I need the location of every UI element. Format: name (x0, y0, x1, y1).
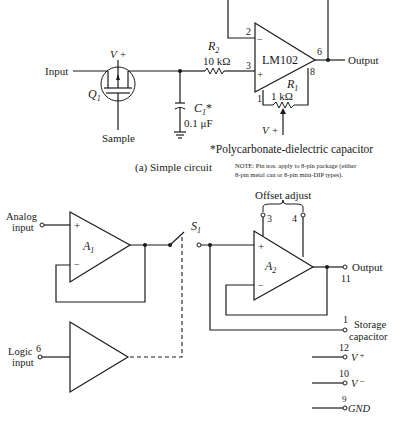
q1-arrow-icon (116, 74, 120, 80)
input-label: Input (45, 65, 68, 77)
r1-value: 1 kΩ (271, 90, 293, 102)
gnd-terminal (343, 406, 347, 410)
vminus-terminal (343, 381, 347, 385)
sample-and-hold-schematic: LM102 − + 2 3 6 8 1 Output Input V + Q1 … (0, 0, 410, 424)
vplus-pin-label: 12 (339, 342, 349, 353)
a2-feedback-wire (226, 267, 327, 315)
a2-minus-sign: − (258, 280, 264, 291)
output-pin-label: 11 (341, 273, 351, 284)
pin-3-label: 3 (246, 60, 251, 71)
offset-pin-3-label: 3 (267, 213, 272, 224)
switch-control-dashed (128, 237, 182, 357)
output-label-b: Output (352, 261, 383, 273)
logic-input-label: Logic (8, 346, 33, 357)
s1-contact-terminal (197, 243, 201, 247)
a1-feedback-wire (56, 245, 145, 302)
analog-input-terminal (40, 223, 44, 227)
footnote: *Polycarbonate-dielectric capacitor (210, 143, 373, 156)
s1-label: S1 (191, 219, 201, 235)
offset-brace (263, 200, 303, 212)
output-node (326, 58, 330, 62)
analog-input-label: Analog (6, 211, 38, 222)
pin-1-label: 1 (257, 93, 262, 104)
c1-value: 0.1 μF (184, 117, 213, 129)
storage-terminal (343, 328, 347, 332)
minus-sign: − (257, 34, 263, 45)
pin-6-label: 6 (317, 46, 322, 57)
sample-label: Sample (102, 132, 135, 144)
storage-label: Storage (354, 319, 386, 330)
circuit-a-simple: LM102 − + 2 3 6 8 1 Output Input V + Q1 … (45, 0, 379, 179)
analog-input-label-2: input (12, 222, 34, 233)
offset-adjust-label: Offset adjust (255, 189, 311, 201)
output-label: Output (348, 54, 379, 66)
vplus-terminal (343, 355, 347, 359)
a1-minus-sign: − (74, 259, 80, 270)
r2-label: R2 (207, 39, 219, 55)
pin-2-label: 2 (246, 26, 251, 37)
storage-label-2: capacitor (349, 331, 388, 342)
offset-pin-4-terminal (301, 213, 305, 217)
plus-sign: + (257, 68, 263, 80)
vminus-label: V− (351, 376, 365, 389)
pin-8-label: 8 (310, 66, 315, 77)
caption-a: (a) Simple circuit (135, 161, 212, 174)
offset-pin-3-terminal (261, 213, 265, 217)
storage-pin-label: 1 (343, 314, 348, 325)
note-line-2: 8-pin metal can or 8-pin mini-DIP types)… (235, 171, 343, 179)
q1-vplus-label: V + (110, 48, 127, 60)
logic-pin-label: 6 (36, 343, 41, 354)
vplus-label: V+ (351, 350, 365, 363)
c1-label: C1* (194, 101, 212, 117)
r1-potentiometer-icon (273, 102, 294, 108)
logic-input-label-2: input (12, 357, 34, 368)
gnd-pin-label: 9 (342, 394, 347, 404)
logic-driver-symbol (70, 322, 128, 392)
circuit-b-sample-hold: Offset adjust 3 4 + − A1 Analog input S1… (6, 189, 388, 414)
a2-label: A2 (264, 259, 276, 275)
q1-label: Q1 (88, 87, 101, 103)
offset-pin-4-label: 4 (292, 213, 297, 224)
note-line-1: NOTE: Pin nos. apply to 8-pin package (e… (235, 162, 357, 170)
r2-value: 10 kΩ (203, 55, 230, 67)
logic-input-terminal (38, 355, 42, 359)
a1-label: A1 (82, 239, 94, 255)
r1-vplus-label: V + (262, 124, 279, 136)
a2-plus-sign: + (258, 240, 264, 252)
vminus-pin-label: 10 (339, 368, 349, 379)
opamp-label: LM102 (262, 53, 298, 67)
output-terminal (343, 265, 347, 269)
gnd-label: GND (348, 403, 371, 414)
r2-resistor-icon (205, 68, 224, 74)
a1-plus-sign: + (74, 219, 80, 231)
